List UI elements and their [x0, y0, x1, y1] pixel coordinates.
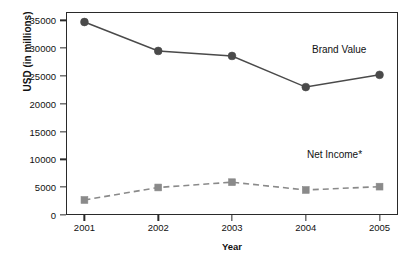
series-label-net-income: Net Income*	[307, 149, 362, 160]
y-tick-label: 20000	[0, 98, 64, 109]
y-tick-mark	[60, 47, 66, 48]
y-tick-mark	[60, 103, 66, 104]
x-tick-mark	[158, 215, 159, 221]
y-tick-mark	[60, 187, 66, 188]
y-tick-mark	[60, 159, 66, 160]
line-chart: USD (in millions) 0500010000150002000025…	[0, 0, 417, 261]
y-tick-mark	[60, 131, 66, 132]
x-tick-mark	[305, 215, 306, 221]
y-tick-label: 35000	[0, 15, 64, 26]
y-tick-label: 10000	[0, 154, 64, 165]
x-tick-label: 2003	[221, 222, 242, 233]
y-tick-label: 30000	[0, 43, 64, 54]
x-tick-label: 2001	[74, 222, 95, 233]
x-tick-mark	[379, 215, 380, 221]
series-label-brand-value: Brand Value	[312, 44, 366, 55]
y-tick-mark	[60, 20, 66, 21]
y-tick-label: 0	[0, 210, 64, 221]
y-tick-label: 15000	[0, 126, 64, 137]
x-tick-mark	[84, 215, 85, 221]
y-tick-label: 25000	[0, 70, 64, 81]
x-tick-mark	[231, 215, 232, 221]
y-tick-mark	[60, 75, 66, 76]
plot-area	[66, 12, 398, 215]
y-tick-label: 5000	[0, 182, 64, 193]
x-axis-title: Year	[66, 241, 398, 252]
x-tick-label: 2004	[295, 222, 316, 233]
x-tick-label: 2002	[148, 222, 169, 233]
y-tick-mark	[60, 214, 66, 215]
x-tick-label: 2005	[369, 222, 390, 233]
